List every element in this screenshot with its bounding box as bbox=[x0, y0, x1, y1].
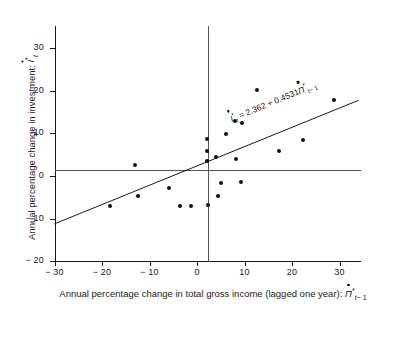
y-axis-symbol: I bbox=[26, 60, 37, 63]
regression-equation-annotation: I*t = 2.362 + 0.4531Π*t− 1 bbox=[228, 77, 319, 125]
x-axis-tick-label: 30 bbox=[325, 267, 355, 277]
y-axis-title-text: Annual percentage change in investment: bbox=[26, 63, 37, 240]
data-point bbox=[239, 180, 243, 184]
dot-accent-icon bbox=[347, 284, 349, 286]
data-point bbox=[189, 204, 193, 208]
data-point bbox=[219, 181, 223, 185]
data-point bbox=[332, 98, 336, 102]
data-point bbox=[216, 194, 220, 198]
data-point bbox=[108, 204, 112, 208]
y-axis-line bbox=[55, 26, 56, 262]
x-axis-tick-label: 10 bbox=[230, 267, 260, 277]
data-point bbox=[214, 155, 218, 159]
data-point bbox=[224, 132, 228, 136]
data-point bbox=[206, 203, 210, 207]
y-axis-tick-mark bbox=[50, 133, 55, 134]
x-axis-tick-mark bbox=[292, 261, 293, 266]
x-axis-title-text: Annual percentage change in total gross … bbox=[59, 288, 345, 299]
scatter-plot-figure: − 20− 100102030 − 30− 20− 100102030 I*t … bbox=[0, 0, 410, 339]
y-axis-tick-mark bbox=[50, 176, 55, 177]
y-axis-tick-mark bbox=[50, 91, 55, 92]
x-axis-tick-label: − 20 bbox=[87, 267, 117, 277]
data-point bbox=[301, 138, 305, 142]
data-point bbox=[277, 149, 281, 153]
x-axis-tick-mark bbox=[197, 261, 198, 266]
dot-accent-icon bbox=[297, 81, 300, 84]
data-point bbox=[136, 194, 140, 198]
x-axis-symbol-subscript-tail: − 1 bbox=[357, 294, 367, 301]
x-axis-tick-mark bbox=[55, 261, 56, 266]
x-axis-tick-label: − 30 bbox=[40, 267, 70, 277]
y-axis-tick-mark bbox=[50, 219, 55, 220]
x-axis-tick-mark bbox=[245, 261, 246, 266]
y-axis-title: Annual percentage change in investment: … bbox=[23, 33, 38, 263]
x-axis-tick-mark bbox=[150, 261, 151, 266]
data-point bbox=[133, 163, 137, 167]
data-point bbox=[167, 186, 171, 190]
data-point bbox=[255, 88, 259, 92]
x-axis-tick-label: − 10 bbox=[135, 267, 165, 277]
y-axis-tick-mark bbox=[50, 48, 55, 49]
equation-rhs-subscript-tail: − 1 bbox=[308, 84, 319, 94]
x-axis-tick-label: 0 bbox=[182, 267, 212, 277]
mean-vertical-reference-line bbox=[208, 26, 209, 262]
dot-accent-icon bbox=[21, 60, 23, 62]
data-point bbox=[178, 204, 182, 208]
x-axis-tick-label: 20 bbox=[277, 267, 307, 277]
equation-slope-value: 0.4531 bbox=[272, 87, 300, 106]
y-axis-symbol-subscript: t bbox=[32, 55, 39, 57]
data-point bbox=[234, 157, 238, 161]
x-axis-tick-mark bbox=[340, 261, 341, 266]
x-axis-symbol: Π bbox=[345, 288, 352, 299]
x-axis-title: Annual percentage change in total gross … bbox=[38, 286, 388, 301]
x-axis-tick-mark bbox=[102, 261, 103, 266]
